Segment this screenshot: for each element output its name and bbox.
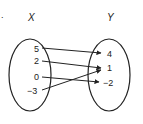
- x-value-neg3: −3: [27, 86, 37, 96]
- y-value-neg2: −2: [103, 78, 113, 88]
- arrow-5-to-4: [42, 48, 101, 53]
- x-value-5: 5: [34, 44, 39, 54]
- item-bullet: .: [1, 10, 4, 20]
- mapping-diagram: . X Y 5 2 0 −3 4 1 −2: [0, 0, 143, 124]
- y-value-4: 4: [107, 49, 112, 59]
- y-value-1: 1: [107, 63, 112, 73]
- x-value-0: 0: [34, 72, 39, 82]
- set-y-label: Y: [107, 12, 115, 23]
- set-x-oval: [9, 39, 51, 111]
- x-value-2: 2: [34, 56, 39, 66]
- set-x-label: X: [27, 12, 35, 23]
